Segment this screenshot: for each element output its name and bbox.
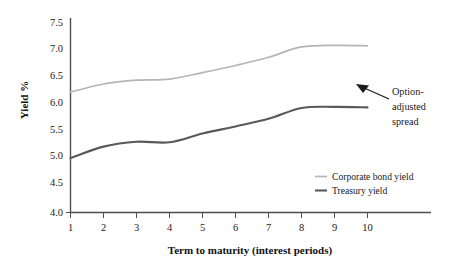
annotation-line-1: Option- [392, 86, 424, 97]
x-tick-label: 7 [266, 222, 271, 233]
x-tick-label: 8 [299, 222, 304, 233]
y-tick-label: 7.5 [50, 17, 63, 28]
annotation-line-3: spread [392, 116, 419, 127]
y-tick-label: 6.0 [50, 97, 63, 108]
series-line-treasury-yield [71, 107, 368, 158]
legend-label-treasury-yield: Treasury yield [332, 185, 388, 196]
x-tick-label: 9 [332, 222, 337, 233]
annotation-arrow-head-icon [356, 84, 369, 93]
x-tick-label: 1 [68, 222, 73, 233]
chart-legend: Corporate bond yield Treasury yield [315, 171, 414, 196]
y-tick-label: 5.0 [50, 150, 63, 161]
x-axis-tick-labels: 1 2 3 4 5 6 7 8 9 10 [68, 222, 373, 233]
chart-figure: 7.5 7.0 6.5 6.0 5.5 5.0 4.5 4.0 1 2 3 [0, 0, 451, 272]
annotation-option-adjusted-spread: Option- adjusted spread [356, 84, 426, 127]
x-axis-ticks [71, 213, 368, 219]
y-axis-tick-labels: 7.5 7.0 6.5 6.0 5.5 5.0 4.5 4.0 [50, 17, 63, 219]
y-tick-label: 7.0 [50, 43, 63, 54]
x-tick-label: 6 [233, 222, 238, 233]
x-tick-label: 10 [362, 222, 373, 233]
x-tick-label: 2 [101, 222, 106, 233]
y-tick-label: 6.5 [50, 70, 63, 81]
y-tick-label: 4.0 [50, 207, 63, 218]
line-chart-canvas: 7.5 7.0 6.5 6.0 5.5 5.0 4.5 4.0 1 2 3 [0, 0, 451, 272]
x-tick-label: 5 [200, 222, 205, 233]
y-axis-title: Yield % [18, 81, 30, 119]
annotation-line-2: adjusted [392, 101, 426, 112]
x-tick-label: 3 [134, 222, 139, 233]
legend-label-corporate-bond-yield: Corporate bond yield [332, 171, 414, 182]
y-tick-label: 4.5 [50, 177, 63, 188]
x-tick-label: 4 [167, 222, 173, 233]
y-tick-label: 5.5 [50, 124, 63, 135]
x-axis-title: Term to maturity (interest periods) [168, 244, 333, 257]
series-line-corporate-bond-yield [71, 45, 368, 92]
